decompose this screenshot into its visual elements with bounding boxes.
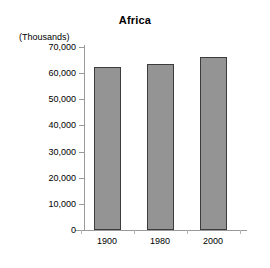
y-axis-tick-label: 60,000 [48,68,76,78]
x-axis-tick [134,230,135,234]
y-axis-tick-label: 40,000 [48,120,76,130]
y-axis-tick [79,204,85,205]
x-axis-tick-label: 1980 [150,236,170,246]
y-axis-tick [79,178,85,179]
y-axis-tick [79,99,85,100]
y-axis-tick-label: 0 [71,225,76,235]
y-axis-tick-label: 10,000 [48,199,76,209]
bar-chart: Africa (Thousands) 70,00060,00050,00040,… [0,0,270,268]
y-axis-tick-label: 50,000 [48,94,76,104]
x-axis-tick [240,230,241,234]
x-axis-tick-label: 1900 [97,236,117,246]
bar [147,64,174,230]
x-axis-tick [187,230,188,234]
y-axis-tick-label: 20,000 [48,173,76,183]
x-axis-line [75,230,247,231]
y-axis-tick-label: 70,000 [48,42,76,52]
y-axis-tick [79,230,85,231]
y-axis-tick [79,47,85,48]
y-axis-tick [79,125,85,126]
y-axis-units-label: (Thousands) [19,32,70,42]
chart-title: Africa [0,14,270,26]
x-axis-tick-label: 2000 [203,236,223,246]
x-axis-tick [81,230,82,234]
y-axis-tick [79,73,85,74]
bar [200,57,227,230]
y-axis-tick-label: 30,000 [48,147,76,157]
y-axis-tick [79,152,85,153]
bar [94,67,121,230]
